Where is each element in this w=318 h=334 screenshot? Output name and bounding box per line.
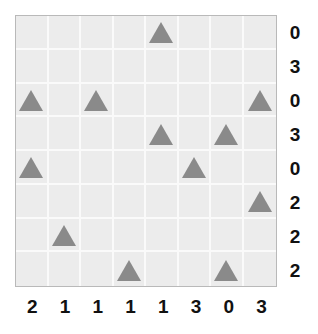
triangle-icon [52,225,76,246]
row-clue-7: 2 [280,254,310,288]
grid-cell-r1-c7[interactable] [244,50,277,84]
column-clue-7: 3 [245,292,278,322]
grid-cell-r0-c7[interactable] [244,16,277,50]
grid-cell-r4-c7[interactable] [244,151,277,185]
puzzle-grid [15,15,277,287]
grid-cell-r4-c3[interactable] [114,151,147,185]
grid-cell-r2-c6[interactable] [211,84,244,118]
grid-cell-r0-c6[interactable] [211,16,244,50]
column-clue-1: 1 [49,292,82,322]
row-clue-5: 2 [280,186,310,220]
row-clue-3: 3 [280,118,310,152]
grid-cell-r6-c1[interactable] [49,219,82,253]
row-clue-0: 0 [280,16,310,50]
triangle-icon [84,90,108,111]
grid-cell-r0-c0[interactable] [16,16,49,50]
grid-cell-r4-c0[interactable] [16,151,49,185]
grid-cell-r3-c3[interactable] [114,117,147,151]
grid-cell-r7-c2[interactable] [81,252,114,286]
grid-cell-r3-c6[interactable] [211,117,244,151]
grid-cell-r0-c2[interactable] [81,16,114,50]
grid-cell-r2-c1[interactable] [49,84,82,118]
grid-cell-r5-c2[interactable] [81,185,114,219]
grid-cell-r6-c4[interactable] [146,219,179,253]
column-clue-3: 1 [114,292,147,322]
row-clues: 03030222 [280,16,310,288]
grid-cell-r5-c5[interactable] [179,185,212,219]
column-clue-0: 2 [16,292,49,322]
grid-cell-r7-c1[interactable] [49,252,82,286]
grid-cell-r5-c7[interactable] [244,185,277,219]
triangle-icon [248,191,272,212]
grid-cell-r0-c1[interactable] [49,16,82,50]
grid-cell-r4-c2[interactable] [81,151,114,185]
triangle-icon [117,260,141,281]
grid-cell-r4-c4[interactable] [146,151,179,185]
grid-cell-r6-c7[interactable] [244,219,277,253]
grid-cell-r6-c2[interactable] [81,219,114,253]
row-clue-1: 3 [280,50,310,84]
grid-cell-r5-c4[interactable] [146,185,179,219]
grid-cell-r3-c0[interactable] [16,117,49,151]
triangle-icon [214,260,238,281]
column-clue-2: 1 [82,292,115,322]
grid-cell-r3-c7[interactable] [244,117,277,151]
grid-cell-r3-c4[interactable] [146,117,179,151]
grid-cell-r1-c0[interactable] [16,50,49,84]
column-clue-4: 1 [147,292,180,322]
grid-cell-r3-c2[interactable] [81,117,114,151]
grid-cell-r7-c7[interactable] [244,252,277,286]
grid-cell-r4-c1[interactable] [49,151,82,185]
column-clue-6: 0 [213,292,246,322]
grid-cell-r2-c4[interactable] [146,84,179,118]
grid-cell-r1-c4[interactable] [146,50,179,84]
grid-cell-r2-c3[interactable] [114,84,147,118]
triangle-icon [149,124,173,145]
triangle-icon [248,90,272,111]
grid-cell-r5-c1[interactable] [49,185,82,219]
grid-cell-r6-c0[interactable] [16,219,49,253]
grid-cell-r1-c5[interactable] [179,50,212,84]
grid-cell-r1-c2[interactable] [81,50,114,84]
grid-cell-r5-c0[interactable] [16,185,49,219]
grid-cell-r7-c5[interactable] [179,252,212,286]
grid-cell-r5-c6[interactable] [211,185,244,219]
grid-cell-r6-c6[interactable] [211,219,244,253]
triangle-icon [19,157,43,178]
row-clue-4: 0 [280,152,310,186]
column-clue-5: 3 [180,292,213,322]
grid-cell-r7-c0[interactable] [16,252,49,286]
grid-cell-r2-c5[interactable] [179,84,212,118]
grid-cell-r5-c3[interactable] [114,185,147,219]
grid-cell-r6-c5[interactable] [179,219,212,253]
triangle-icon [149,22,173,43]
triangle-icon [214,124,238,145]
grid-cell-r1-c3[interactable] [114,50,147,84]
grid-cell-r7-c3[interactable] [114,252,147,286]
grid-cell-r3-c1[interactable] [49,117,82,151]
grid-cell-r3-c5[interactable] [179,117,212,151]
grid-cell-r0-c4[interactable] [146,16,179,50]
grid-cell-r0-c5[interactable] [179,16,212,50]
triangle-icon [19,90,43,111]
grid-cell-r7-c6[interactable] [211,252,244,286]
grid-cell-r2-c2[interactable] [81,84,114,118]
column-clues: 21111303 [16,292,278,322]
grid-cell-r6-c3[interactable] [114,219,147,253]
row-clue-6: 2 [280,220,310,254]
triangle-icon [182,157,206,178]
grid-cell-r2-c7[interactable] [244,84,277,118]
grid-cell-r1-c1[interactable] [49,50,82,84]
grid-cell-r4-c6[interactable] [211,151,244,185]
grid-cell-r4-c5[interactable] [179,151,212,185]
grid-cell-r1-c6[interactable] [211,50,244,84]
grid-cell-r7-c4[interactable] [146,252,179,286]
grid-cell-r0-c3[interactable] [114,16,147,50]
row-clue-2: 0 [280,84,310,118]
grid-cell-r2-c0[interactable] [16,84,49,118]
